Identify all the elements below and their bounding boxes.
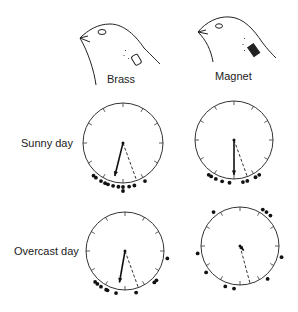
expected-direction-line [123,143,137,181]
bird-heading-dot [254,175,258,179]
bird-heading-dot [106,288,110,292]
bird-heading-dot [261,208,265,212]
bird-heading-dot [95,282,99,286]
expected-direction-line [240,246,250,284]
tick-mark [252,106,254,109]
bird-heading-dot [106,182,110,186]
bird-heading-dot [121,189,125,193]
column-label-magnet: Magnet [215,70,252,82]
column-label-brass: Brass [107,73,135,85]
tick-mark [206,227,209,229]
center-dot [122,142,125,145]
tick-mark [264,158,267,160]
bird-heading-dot [232,287,236,291]
row-label-sunny: Sunny day [21,137,73,149]
tick-mark [91,232,94,234]
magnet-bird-drawing [198,17,276,62]
bird-heading-dot [228,181,232,185]
bird-heading-dot [143,179,147,183]
tick-mark [215,106,217,109]
tick-mark [155,232,158,234]
expected-direction-line [125,251,138,288]
arrowhead-icon [232,171,236,176]
bird-heading-dot [220,179,224,183]
circular-plot-brass-overcast [86,212,169,295]
bird-heading-dot [265,210,269,214]
tick-mark [215,170,217,173]
tick-mark [154,123,157,125]
tick-mark [154,161,157,163]
tick-mark [106,217,108,220]
bird-heading-dot [165,257,169,261]
center-dot [239,245,242,248]
bird-heading-dot [134,291,138,295]
bird-heading-dot [269,214,273,218]
row-label-overcast: Overcast day [14,245,79,257]
tick-mark [143,281,145,284]
bird-heading-dot [111,184,115,188]
bird-heading-dot [212,210,216,214]
tick-mark [258,212,260,215]
bird-heading-dot [99,179,103,183]
center-dot [124,250,127,253]
tick-mark [252,170,254,173]
mean-vector-arrow [119,251,125,282]
bird-heading-dot [204,271,208,275]
tick-mark [206,264,209,266]
bird-heading-dot [196,252,200,256]
expected-direction-line [234,140,247,177]
tick-mark [258,276,260,279]
center-dot [233,139,236,142]
bird-heading-dot [209,175,213,179]
tick-mark [200,121,203,123]
bird-heading-dot [127,185,131,189]
tick-mark [264,121,267,123]
tick-mark [270,264,273,266]
tick-mark [141,108,143,111]
tick-mark [155,269,158,271]
tick-mark [143,217,145,220]
tick-mark [141,174,143,177]
tick-mark [221,276,223,279]
brass-bar-icon [131,54,142,66]
bird-heading-dot [241,180,245,184]
bird-heading-dot [132,184,136,188]
bird-heading-dot [114,291,118,295]
tick-mark [103,174,105,177]
bird-heading-dot [280,255,284,259]
bird-heading-dot [214,177,218,181]
bird-heading-dot [94,176,98,180]
circular-plot-magnet-overcast [196,207,284,290]
tick-mark [103,108,105,111]
tick-mark [88,123,91,125]
tick-mark [88,161,91,163]
bird-heading-dot [99,285,103,289]
circular-plot-brass-sunny [83,103,163,193]
bird-heading-dot [245,179,249,183]
tick-mark [270,227,273,229]
circular-plot-magnet-sunny [195,101,273,185]
tick-mark [221,212,223,215]
tick-mark [106,281,108,284]
figure-canvas [0,0,298,312]
bird-heading-dot [266,277,270,281]
magnet-bar-icon [248,44,260,57]
bird-heading-dot [121,185,125,189]
bird-heading-dot [155,278,159,282]
tick-mark [200,158,203,160]
tick-mark [91,269,94,271]
mean-vector-arrow [115,143,123,176]
bird-heading-dot [117,185,121,189]
bird-heading-dot [257,173,261,177]
bird-heading-dot [223,285,227,289]
